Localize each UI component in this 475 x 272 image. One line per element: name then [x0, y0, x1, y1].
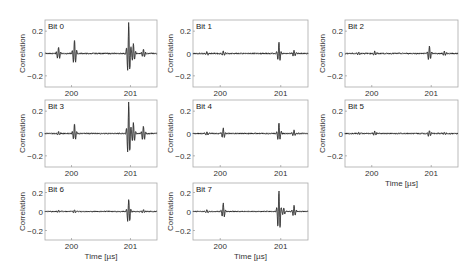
y-axis-label: Correlation [166, 192, 175, 231]
y-tick-label: 0 [39, 130, 44, 139]
y-tick-label: 0 [187, 208, 192, 217]
y-tick-label: 0 [39, 50, 44, 59]
y-tick-label: −0.2 [27, 72, 43, 81]
x-axis-label: Time [µs] [234, 252, 267, 261]
panel-title: Bit 7 [196, 185, 213, 194]
y-tick-label: 0.2 [180, 189, 192, 198]
y-tick-label: 0.2 [332, 107, 344, 116]
y-axis-label: Correlation [166, 114, 175, 153]
y-axis-label: Correlation [18, 34, 27, 73]
panel-bit-4: 200201−0.200.2CorrelationBit 4 [166, 100, 308, 178]
y-tick-label: −0.2 [175, 227, 191, 236]
x-axis-label: Time [µs] [385, 179, 418, 188]
y-tick-label: −0.2 [27, 152, 43, 161]
x-tick-label: 201 [124, 169, 138, 178]
y-axis-label: Correlation [166, 34, 175, 73]
panel-bit-1: 200201−0.200.2CorrelationBit 1 [166, 20, 308, 98]
y-tick-label: 0.2 [32, 27, 44, 36]
x-axis-label: Time [µs] [85, 252, 118, 261]
y-axis-label: Correlation [318, 34, 327, 73]
y-tick-label: 0.2 [32, 107, 44, 116]
y-tick-label: −0.2 [327, 72, 343, 81]
panel-bit-2: 200201−0.200.2CorrelationBit 2 [318, 20, 458, 98]
panel-bit-0: 200201−0.200.2CorrelationBit 0 [18, 20, 157, 98]
x-tick-label: 201 [124, 89, 138, 98]
y-tick-label: −0.2 [327, 152, 343, 161]
y-axis-label: Correlation [18, 114, 27, 153]
y-tick-label: 0 [339, 130, 344, 139]
panel-bit-6: 200201−0.200.2CorrelationTime [µs]Bit 6 [18, 183, 157, 261]
x-tick-label: 200 [65, 242, 79, 251]
panel-title: Bit 6 [48, 185, 65, 194]
x-tick-label: 200 [365, 89, 379, 98]
y-tick-label: −0.2 [175, 72, 191, 81]
figure: 200201−0.200.2CorrelationBit 0200201−0.2… [0, 0, 475, 272]
x-tick-label: 201 [425, 89, 439, 98]
y-axis-label: Correlation [318, 114, 327, 153]
x-tick-label: 201 [274, 89, 288, 98]
panel-title: Bit 3 [48, 102, 65, 111]
panel-bit-5: 200201−0.200.2CorrelationTime [µs]Bit 5 [318, 100, 458, 188]
y-tick-label: −0.2 [27, 227, 43, 236]
panel-bit-7: 200201−0.200.2CorrelationTime [µs]Bit 7 [166, 183, 308, 261]
panel-title: Bit 4 [196, 102, 213, 111]
panel-title: Bit 0 [48, 22, 65, 31]
y-tick-label: 0 [339, 50, 344, 59]
panel-title: Bit 1 [196, 22, 213, 31]
y-tick-label: −0.2 [175, 152, 191, 161]
x-tick-label: 201 [274, 169, 288, 178]
x-tick-label: 200 [214, 242, 228, 251]
x-tick-label: 200 [214, 89, 228, 98]
x-tick-label: 200 [65, 169, 79, 178]
panel-title: Bit 2 [348, 22, 365, 31]
y-tick-label: 0.2 [180, 27, 192, 36]
y-axis-label: Correlation [18, 192, 27, 231]
y-tick-label: 0 [187, 130, 192, 139]
x-tick-label: 201 [425, 169, 439, 178]
x-tick-label: 200 [65, 89, 79, 98]
x-tick-label: 201 [124, 242, 138, 251]
y-tick-label: 0.2 [32, 189, 44, 198]
y-tick-label: 0.2 [180, 107, 192, 116]
panel-title: Bit 5 [348, 102, 365, 111]
x-tick-label: 201 [274, 242, 288, 251]
y-tick-label: 0.2 [332, 27, 344, 36]
y-tick-label: 0 [39, 208, 44, 217]
panel-bit-3: 200201−0.200.2CorrelationBit 3 [18, 100, 157, 178]
x-tick-label: 200 [214, 169, 228, 178]
y-tick-label: 0 [187, 50, 192, 59]
x-tick-label: 200 [365, 169, 379, 178]
